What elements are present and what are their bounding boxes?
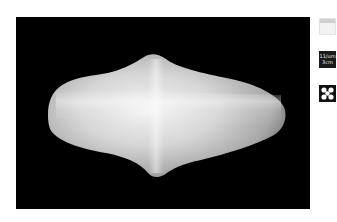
object-highlight [56, 89, 281, 125]
side-toolbar: 11/um 3cm [319, 0, 337, 222]
object-crease [148, 59, 164, 173]
view-mode-button[interactable] [319, 85, 336, 102]
background-toggle-button[interactable] [319, 18, 336, 35]
scale-button[interactable]: 11/um 3cm [319, 51, 336, 68]
background-icon [320, 19, 335, 23]
quatrefoil-icon [319, 85, 336, 102]
3d-model-render[interactable] [16, 17, 310, 209]
3d-viewport[interactable] [16, 17, 310, 209]
scale-line-2: 3cm [319, 59, 336, 65]
